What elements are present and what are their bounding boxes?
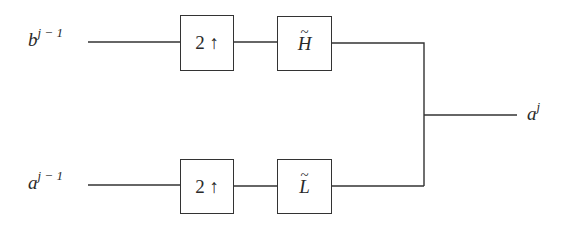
label-base: a [527,103,537,124]
tilde-accent: ~ [300,24,308,41]
label-superscript: j [537,99,541,114]
upsample-block-top: 2 ↑ [180,15,234,71]
upsample-label: 2 ↑ [195,176,219,198]
input-label-a: aj − 1 [28,173,63,192]
filter-block-h-tilde: ~H [277,16,332,71]
wavelet-reconstruction-diagram: bj − 1 aj − 1 2 ↑ ~H 2 ↑ ~L aj [0,0,574,226]
label-superscript: j − 1 [38,25,63,40]
filter-label: ~H [298,33,312,55]
output-label: aj [527,104,540,123]
label-base: b [28,29,38,50]
upsample-block-bottom: 2 ↑ [180,159,234,214]
label-superscript: j − 1 [38,168,63,183]
edge-h-to-junction [331,43,424,186]
filter-label: ~L [299,176,310,198]
input-label-b: bj − 1 [28,30,63,49]
label-base: a [28,172,38,193]
tilde-accent: ~ [300,167,308,184]
upsample-label: 2 ↑ [195,32,219,54]
filter-block-l-tilde: ~L [277,159,332,214]
